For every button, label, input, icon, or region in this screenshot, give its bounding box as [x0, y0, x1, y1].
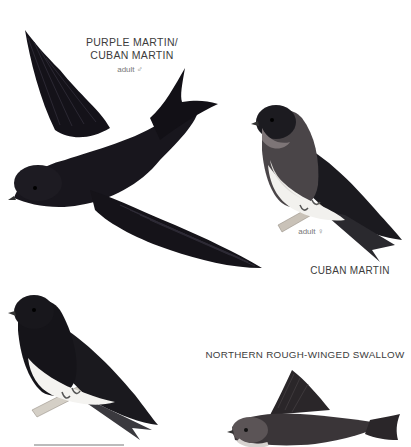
rough-winged-swallow-illustration — [0, 0, 411, 447]
